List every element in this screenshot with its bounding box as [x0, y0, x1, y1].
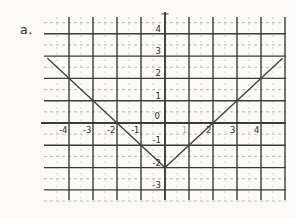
y-tick-label: 1: [156, 91, 161, 101]
y-tick-label: 3: [156, 46, 161, 56]
y-tick-label: -3: [153, 180, 161, 190]
y-tick-label: -1: [153, 135, 161, 145]
worksheet-page: a. -4-3-2-112344321-1-2-30: [0, 0, 296, 218]
graph-plot: -4-3-2-112344321-1-2-30: [0, 0, 296, 218]
x-tick-label: -4: [59, 125, 67, 135]
y-tick-label: -2: [153, 158, 161, 168]
x-tick-label: -2: [107, 125, 115, 135]
x-tick-label: -1: [131, 125, 139, 135]
x-tick-label: -3: [83, 125, 91, 135]
x-tick-label: 3: [230, 125, 235, 135]
y-tick-label: 4: [156, 24, 161, 34]
x-tick-label: 1: [182, 125, 187, 135]
graph-svg: -4-3-2-112344321-1-2-30: [0, 0, 296, 218]
y-tick-label: 2: [156, 68, 161, 78]
x-tick-label: 4: [254, 125, 259, 135]
origin-label: 0: [155, 111, 160, 121]
x-tick-label: 2: [206, 125, 211, 135]
